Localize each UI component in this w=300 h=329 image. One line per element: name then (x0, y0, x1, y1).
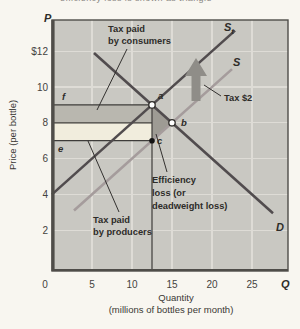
x-tick-15: 15 (166, 279, 178, 290)
point-a-label: a (158, 90, 163, 101)
x-axis-title: Quantity (158, 292, 194, 303)
point-c-marker (149, 138, 155, 144)
quantity-axis-symbol: Q (281, 278, 290, 290)
y-tick-10: 10 (37, 82, 49, 93)
producer-tax-band (52, 123, 152, 141)
y-tick-2: 2 (42, 225, 48, 236)
point-b-label: b (181, 117, 187, 128)
efficiency-loss-label-line3: deadweight loss) (152, 201, 227, 211)
x-axis-subtitle: (millions of bottles per month) (109, 304, 234, 315)
demand-label: D (276, 221, 284, 233)
x-tick-10: 10 (126, 279, 138, 290)
tax-producers-label-line1: Tax paid (93, 215, 130, 225)
tax-incidence-figure: a b c f e St S D P Q $12 10 8 6 4 2 0 5 … (0, 0, 300, 329)
y-tick-6: 6 (42, 153, 48, 164)
y-tick-12: $12 (31, 46, 48, 57)
tax-amount-label: Tax $2 (224, 93, 252, 103)
x-tick-labels: 0 5 10 15 20 25 (42, 279, 258, 290)
price-axis-symbol: P (44, 12, 52, 24)
consumer-tax-band (52, 105, 152, 123)
tax-producers-label-line2: by producers (93, 227, 152, 237)
x-tick-20: 20 (206, 279, 218, 290)
point-c-label: c (157, 135, 163, 146)
y-tick-labels: $12 10 8 6 4 2 (31, 46, 48, 236)
point-e-label: e (58, 143, 64, 154)
tax-consumers-label-line2: by consumers (108, 36, 171, 46)
point-b-marker (169, 120, 175, 126)
efficiency-loss-label-line2: loss (or (152, 188, 186, 198)
x-tick-0: 0 (42, 279, 48, 290)
x-tick-25: 25 (246, 279, 258, 290)
x-tick-5: 5 (89, 279, 95, 290)
y-axis-title: Price (per bottle) (7, 100, 18, 170)
supply-label: S (233, 56, 241, 68)
y-tick-8: 8 (42, 117, 48, 128)
y-tick-4: 4 (42, 189, 48, 200)
point-a-marker (149, 102, 155, 108)
st-label-sub: t (231, 27, 234, 36)
efficiency-loss-label-line1: Efficiency (152, 175, 197, 185)
tax-consumers-label-line1: Tax paid (108, 24, 145, 34)
